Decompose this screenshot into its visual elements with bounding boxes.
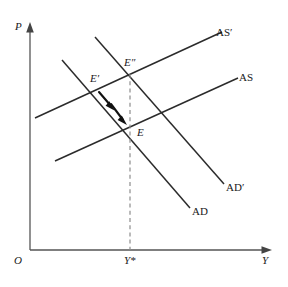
as-curve: [55, 78, 238, 161]
x-axis-arrowhead: [262, 246, 273, 254]
ad-curve: [62, 60, 190, 208]
origin-label: O: [14, 255, 22, 266]
x-axis-label: Y: [262, 255, 268, 266]
adjustment-arrow-upper: [99, 92, 115, 111]
y-axis-label: P: [15, 21, 22, 32]
as-label: AS: [239, 72, 253, 83]
as-prime-label: AS′: [216, 27, 232, 38]
point-label-e: E: [137, 127, 144, 138]
ad-label: AD: [192, 206, 208, 217]
adjustment-arrow-lower: [111, 104, 127, 125]
y-axis-arrowhead: [26, 22, 34, 33]
point-label-e-double-prime: E″: [124, 57, 135, 68]
ad-prime-curve: [95, 37, 224, 184]
as-ad-diagram: P Y O Y* AS′ AS AD′ AD E″ E′ E: [0, 0, 288, 287]
point-label-e-prime: E′: [90, 73, 99, 84]
ad-prime-label: AD′: [226, 182, 244, 193]
y-star-tick-label: Y*: [124, 255, 136, 266]
diagram-canvas: [0, 0, 288, 287]
